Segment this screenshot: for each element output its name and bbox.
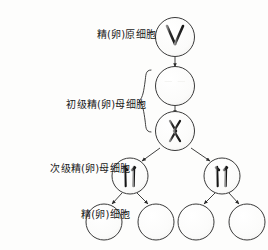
arrow-secondary-left-to-gamete-2 [137, 193, 148, 204]
arrow-secondary-right-to-gamete-4 [229, 193, 239, 204]
cell-oogonium [156, 18, 195, 57]
arrow-secondary-right-to-gamete-3 [204, 193, 215, 204]
cell-primary-spermatocyte-tetrad [156, 112, 195, 151]
label-oogonium: 精(卵)原细胞 [97, 29, 156, 40]
label-primary-spermatocyte: 初级精(卵)母细胞 [66, 99, 146, 110]
arrow-paired-to-secondary-left [142, 148, 160, 161]
cell-primary-spermatocyte-replicated [156, 67, 195, 106]
label-gamete: 精(卵)细胞 [81, 209, 130, 220]
cell-secondary-spermatocyte-right [204, 158, 240, 194]
cell-gamete-2 [138, 204, 174, 240]
label-secondary-spermatocyte: 次级精(卵)母细胞 [50, 163, 130, 174]
arrow-secondary-left-to-gamete-1 [112, 193, 122, 204]
cell-gamete-4 [229, 204, 265, 240]
meiosis-diagram: 精(卵)原细胞 初级精(卵)母细胞 次级精(卵)母细胞 精(卵)细胞 [0, 0, 268, 250]
arrow-paired-to-secondary-right [191, 148, 210, 161]
cell-gamete-3 [178, 204, 214, 240]
